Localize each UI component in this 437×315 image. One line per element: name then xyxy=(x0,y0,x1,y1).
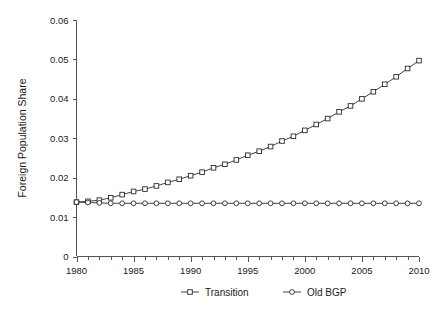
y-tick-label: 0.03 xyxy=(50,133,69,144)
data-point-marker xyxy=(188,201,193,206)
data-point-marker xyxy=(314,122,319,127)
data-point-marker xyxy=(337,110,342,115)
data-point-marker xyxy=(417,201,422,206)
data-point-marker xyxy=(405,201,410,206)
data-point-marker xyxy=(382,201,387,206)
data-point-marker xyxy=(245,201,250,206)
data-point-marker xyxy=(314,201,319,206)
data-point-marker xyxy=(257,149,262,154)
data-point-marker xyxy=(97,200,102,205)
data-point-marker xyxy=(417,58,422,63)
x-tick-label: 1995 xyxy=(237,265,258,276)
y-tick-label: 0.04 xyxy=(50,93,69,104)
data-point-marker xyxy=(280,139,285,144)
y-tick-label: 0.06 xyxy=(50,15,69,26)
data-point-marker xyxy=(303,128,308,133)
data-point-marker xyxy=(325,201,330,206)
data-point-marker xyxy=(234,158,239,163)
y-axis-title: Foreign Population Share xyxy=(16,78,28,197)
x-tick-label: 2010 xyxy=(408,265,429,276)
data-point-marker xyxy=(234,201,239,206)
x-tick-label: 1980 xyxy=(66,265,87,276)
y-tick-label: 0 xyxy=(63,251,68,262)
x-tick-label: 2005 xyxy=(351,265,372,276)
data-point-marker xyxy=(188,173,193,178)
data-point-marker xyxy=(154,201,159,206)
data-point-marker xyxy=(371,89,376,94)
data-point-marker xyxy=(165,201,170,206)
data-point-marker xyxy=(74,200,79,205)
data-point-marker xyxy=(211,201,216,206)
data-point-marker xyxy=(120,201,125,206)
x-tick-label: 1985 xyxy=(123,265,144,276)
legend-label: Transition xyxy=(205,287,249,298)
data-point-marker xyxy=(143,201,148,206)
y-axis-title-label: Foreign Population Share xyxy=(16,78,28,197)
chart-svg: Foreign Population Share 00.010.020.030.… xyxy=(0,0,437,315)
data-point-marker xyxy=(245,153,250,158)
y-tick-label: 0.02 xyxy=(50,172,69,183)
x-tick-label: 1990 xyxy=(180,265,201,276)
data-point-marker xyxy=(360,97,365,102)
data-point-marker xyxy=(86,200,91,205)
data-point-marker xyxy=(302,201,307,206)
data-point-marker xyxy=(108,195,113,200)
data-point-marker xyxy=(405,66,410,71)
data-point-marker xyxy=(223,201,228,206)
data-point-marker xyxy=(291,201,296,206)
x-tick-label: 2000 xyxy=(294,265,315,276)
legend-marker xyxy=(188,290,193,295)
data-point-marker xyxy=(394,201,399,206)
data-point-marker xyxy=(108,201,113,206)
data-point-marker xyxy=(268,201,273,206)
data-point-marker xyxy=(166,180,171,185)
data-point-marker xyxy=(291,134,296,139)
data-point-marker xyxy=(177,201,182,206)
data-point-marker xyxy=(382,82,387,87)
data-point-marker xyxy=(280,201,285,206)
data-point-marker xyxy=(337,201,342,206)
data-point-marker xyxy=(143,187,148,192)
data-point-marker xyxy=(394,74,399,79)
y-tick-label: 0.05 xyxy=(50,54,69,65)
data-point-marker xyxy=(348,201,353,206)
data-point-marker xyxy=(200,170,205,175)
data-point-marker xyxy=(120,192,125,197)
data-point-marker xyxy=(257,201,262,206)
legend-label: Old BGP xyxy=(307,287,347,298)
data-point-marker xyxy=(360,201,365,206)
data-point-marker xyxy=(348,104,353,109)
data-point-marker xyxy=(154,184,159,189)
data-point-marker xyxy=(371,201,376,206)
legend-marker xyxy=(290,290,295,295)
data-point-marker xyxy=(177,177,182,182)
data-point-marker xyxy=(200,201,205,206)
chart-figure: Foreign Population Share 00.010.020.030.… xyxy=(0,0,437,315)
data-point-marker xyxy=(268,144,273,149)
data-point-marker xyxy=(223,162,228,167)
y-tick-label: 0.01 xyxy=(50,212,69,223)
data-point-marker xyxy=(211,166,216,171)
data-point-marker xyxy=(131,201,136,206)
data-point-marker xyxy=(325,116,330,121)
data-point-marker xyxy=(131,189,136,194)
